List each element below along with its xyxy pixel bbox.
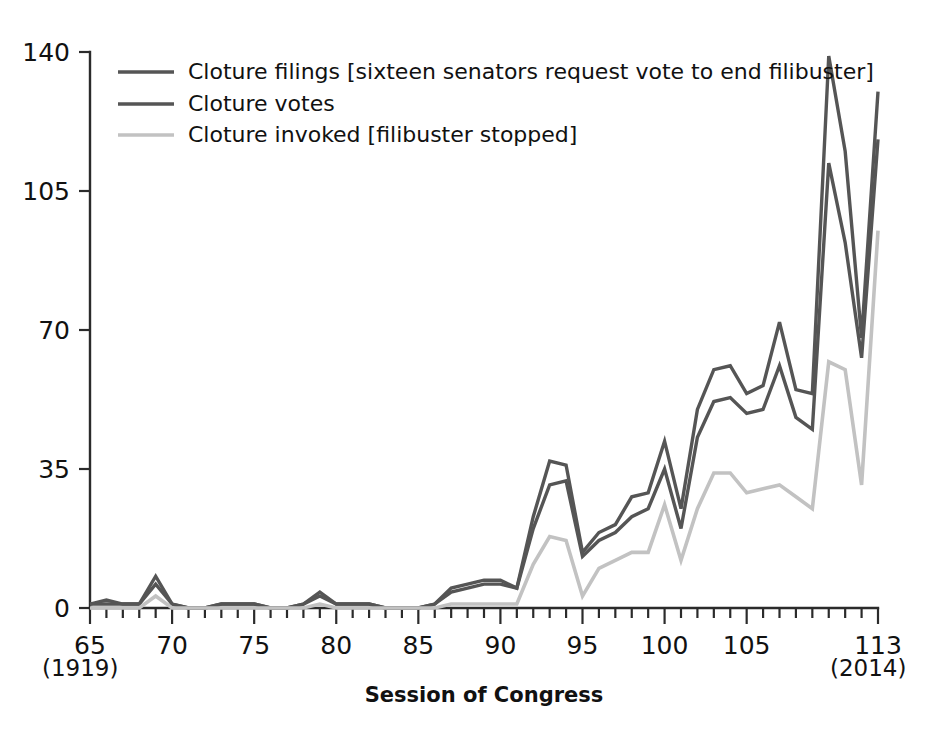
legend-label-3: Cloture invoked [filibuster stopped] xyxy=(188,122,577,147)
x-axis-end-year-annotation: (2014) xyxy=(830,655,906,681)
x-axis-start-year-annotation: (1919) xyxy=(42,655,118,681)
y-axis-tick-label: 0 xyxy=(54,594,70,623)
x-axis-tick-label: 80 xyxy=(320,631,352,660)
y-axis-tick-label: 105 xyxy=(22,177,70,206)
x-axis-title: Session of Congress xyxy=(365,683,604,707)
x-axis-tick-label: 75 xyxy=(238,631,270,660)
x-axis-tick-label: 70 xyxy=(156,631,188,660)
legend-label-1: Cloture filings [sixteen senators reques… xyxy=(188,59,874,84)
chart-canvas: 03570105140 65707580859095100105113 Clot… xyxy=(0,0,951,736)
y-axis-tick-label: 140 xyxy=(22,38,70,67)
x-axis-tick-label: 105 xyxy=(723,631,771,660)
y-axis-tick-label: 70 xyxy=(38,316,70,345)
x-axis-tick-label: 90 xyxy=(485,631,517,660)
x-axis-tick-label: 85 xyxy=(402,631,434,660)
x-axis-tick-label: 100 xyxy=(641,631,689,660)
legend-label-2: Cloture votes xyxy=(188,91,335,116)
x-axis-tick-label: 95 xyxy=(567,631,599,660)
cloture-line-chart: 03570105140 65707580859095100105113 Clot… xyxy=(0,0,951,736)
chart-background xyxy=(0,0,951,736)
y-axis-tick-label: 35 xyxy=(38,455,70,484)
